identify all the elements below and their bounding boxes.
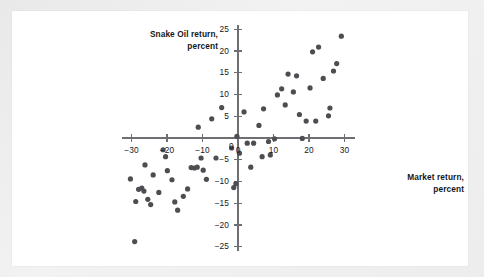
data-point	[285, 71, 290, 76]
data-point	[266, 139, 271, 144]
y-axis-title: Snake Oil return,percent	[120, 29, 218, 52]
data-point	[196, 125, 201, 130]
data-point	[128, 176, 133, 181]
data-point	[241, 109, 246, 114]
data-point	[334, 61, 339, 66]
data-point	[172, 199, 177, 204]
y-tick-label: 10	[207, 89, 229, 99]
data-point	[195, 165, 200, 170]
data-point	[234, 134, 239, 139]
x-tick-label: −20	[154, 145, 180, 155]
data-point	[165, 168, 170, 173]
data-point	[175, 208, 180, 213]
data-point	[321, 76, 326, 81]
data-point	[141, 188, 146, 193]
x-tick-label: 30	[332, 145, 358, 155]
data-point	[316, 44, 321, 49]
y-tick-label: −20	[207, 220, 229, 230]
data-point	[233, 181, 238, 186]
data-point	[300, 136, 305, 141]
data-point	[132, 239, 137, 244]
data-point	[327, 105, 332, 110]
data-point	[275, 92, 280, 97]
data-point	[251, 141, 256, 146]
data-point	[339, 34, 344, 39]
data-point	[283, 102, 288, 107]
data-points-group	[128, 34, 344, 245]
data-point	[294, 73, 299, 78]
y-tick-label: −10	[207, 176, 229, 186]
data-point	[151, 172, 156, 177]
data-point	[313, 118, 318, 123]
data-point	[248, 165, 253, 170]
y-tick-label: −15	[207, 198, 229, 208]
y-tick-label: 20	[207, 46, 229, 56]
data-point	[297, 112, 302, 117]
data-point	[169, 177, 174, 182]
y-tick-label: −5	[207, 154, 229, 164]
data-point	[145, 197, 150, 202]
y-tick-label: 0	[229, 141, 251, 151]
data-point	[291, 89, 296, 94]
x-tick-label: 20	[296, 145, 322, 155]
data-point	[219, 105, 224, 110]
y-tick-label: 5	[207, 111, 229, 121]
data-point	[185, 186, 190, 191]
scatter-plot: Snake Oil return,percent Market return,p…	[12, 11, 468, 266]
data-point	[142, 162, 147, 167]
y-tick-label: 15	[207, 67, 229, 77]
data-point	[307, 85, 312, 90]
data-point	[256, 123, 261, 128]
chart-canvas	[12, 11, 468, 266]
data-point	[331, 68, 336, 73]
data-point	[272, 136, 277, 141]
data-point	[156, 190, 161, 195]
data-point	[148, 202, 153, 207]
data-point	[304, 118, 309, 123]
data-point	[133, 199, 138, 204]
y-tick-label: −25	[207, 241, 229, 251]
data-point	[261, 106, 266, 111]
data-point	[279, 86, 284, 91]
data-point	[326, 113, 331, 118]
y-tick-label: 25	[207, 24, 229, 34]
chart-plate: Snake Oil return,percent Market return,p…	[12, 11, 468, 266]
figure-background: Snake Oil return,percent Market return,p…	[0, 0, 484, 277]
data-point	[181, 194, 186, 199]
data-point	[198, 155, 203, 160]
x-axis-title: Market return,percent	[368, 172, 464, 195]
data-point	[201, 168, 206, 173]
data-point	[310, 49, 315, 54]
x-tick-label: 10	[261, 145, 287, 155]
x-tick-label: −30	[119, 145, 145, 155]
